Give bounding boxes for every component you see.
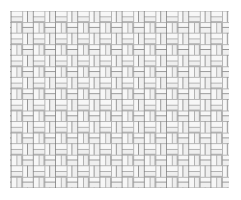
- pattern-canvas: Basketweave tiling pattern: [0, 0, 241, 200]
- basketweave-fill-area: [10, 11, 229, 188]
- basketweave-pattern-svg: Basketweave tiling pattern: [0, 0, 241, 200]
